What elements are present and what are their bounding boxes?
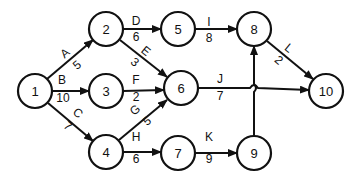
- edge-dummy-9-8: [254, 46, 256, 136]
- node-9-label: 9: [250, 146, 257, 161]
- edge-k-activity: K: [205, 130, 213, 144]
- node-5: 5: [161, 12, 195, 46]
- edge-f-activity: F: [132, 73, 139, 87]
- edge-l-duration: 2: [272, 52, 286, 67]
- edge-f: F 2: [123, 73, 164, 104]
- edge-g-activity: G: [127, 102, 143, 119]
- edge-j-duration: 7: [217, 89, 224, 103]
- edge-e: E 3: [120, 40, 167, 77]
- node-5-label: 5: [174, 22, 181, 37]
- edge-h-activity: H: [132, 130, 141, 144]
- edge-d: D 6: [123, 14, 161, 44]
- edge-g: G 5: [119, 100, 167, 140]
- edge-d-duration: 6: [133, 30, 140, 44]
- edge-i-duration: 8: [206, 31, 213, 45]
- node-7-label: 7: [174, 146, 181, 161]
- edge-b-duration: 10: [56, 91, 70, 105]
- node-2-label: 2: [102, 22, 109, 37]
- edge-i-activity: I: [207, 15, 210, 29]
- edge-e-duration: 3: [128, 54, 142, 69]
- edge-c-duration: 7: [61, 118, 75, 133]
- edge-a: A 5: [47, 40, 93, 79]
- edge-i: I 8: [195, 15, 237, 45]
- node-3-label: 3: [102, 84, 109, 99]
- node-8-label: 8: [250, 22, 257, 37]
- node-8: 8: [237, 12, 271, 46]
- edge-l-activity: L: [282, 40, 296, 55]
- node-1: 1: [18, 74, 52, 108]
- node-3: 3: [89, 74, 123, 108]
- node-6-label: 6: [177, 81, 184, 96]
- edge-k-duration: 9: [206, 152, 213, 166]
- node-10-label: 10: [319, 84, 333, 99]
- edge-d-activity: D: [132, 14, 141, 28]
- node-9: 9: [237, 136, 271, 170]
- edge-c-activity: C: [70, 105, 86, 122]
- edge-j-activity: J: [217, 72, 223, 86]
- node-10: 10: [309, 74, 343, 108]
- node-1-label: 1: [31, 84, 38, 99]
- edge-b-activity: B: [58, 73, 66, 87]
- edge-c: C 7: [48, 103, 93, 141]
- edge-h-duration: 6: [133, 152, 140, 166]
- node-6: 6: [164, 71, 198, 105]
- node-7: 7: [161, 136, 195, 170]
- edge-l: L 2: [267, 40, 313, 79]
- node-4: 4: [89, 135, 123, 169]
- edge-a-duration: 5: [70, 57, 84, 72]
- node-4-label: 4: [102, 145, 109, 160]
- edge-h: H 6: [123, 130, 161, 166]
- node-2: 2: [89, 12, 123, 46]
- activity-network-diagram: A 5 B 10 C 7 D 6 E 3 F 2: [0, 0, 358, 174]
- edge-k: K 9: [195, 130, 237, 166]
- edge-b: B 10: [52, 73, 89, 105]
